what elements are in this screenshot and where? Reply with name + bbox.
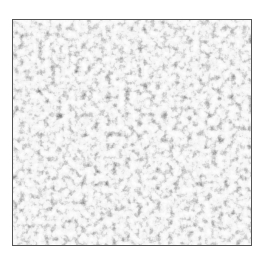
noise-texture-frame <box>12 19 252 246</box>
noise-texture <box>13 20 251 245</box>
